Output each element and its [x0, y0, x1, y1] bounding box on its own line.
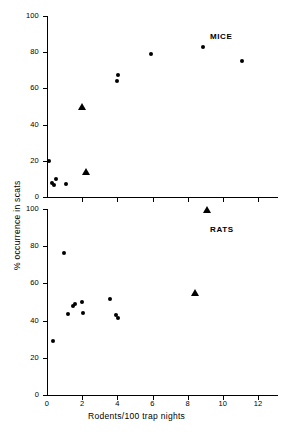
data-point-circle [64, 182, 68, 186]
data-point-triangle [82, 168, 90, 175]
y-axis-tick-label: 60 [17, 84, 39, 92]
x-axis-tick-label: 12 [250, 400, 266, 408]
data-point-circle [115, 79, 119, 83]
y-axis-tick [43, 246, 47, 247]
y-axis-line [47, 209, 48, 395]
data-point-circle [116, 316, 120, 320]
y-axis-tick-label: 80 [17, 48, 39, 56]
panel-title-rats: RATS [210, 225, 234, 234]
y-axis-tick-label: 60 [17, 279, 39, 287]
data-point-triangle [78, 103, 86, 110]
data-point-circle [73, 302, 77, 306]
y-axis-tick [43, 358, 47, 359]
data-point-circle [240, 59, 244, 63]
data-point-circle [51, 339, 55, 343]
x-axis-tick-label: 4 [109, 400, 125, 408]
data-point-circle [54, 177, 58, 181]
y-axis-tick [43, 88, 47, 89]
data-point-circle [149, 52, 153, 56]
data-point-circle [108, 297, 112, 301]
y-axis-tick [43, 209, 47, 210]
x-axis-tick [153, 198, 154, 202]
y-axis-tick-label: 40 [17, 121, 39, 129]
data-point-circle [81, 311, 85, 315]
y-axis-tick-label: 20 [17, 354, 39, 362]
x-axis-tick-label: 0 [39, 400, 55, 408]
x-axis-tick-label: 6 [145, 400, 161, 408]
y-axis-tick-label: 0 [17, 391, 39, 399]
panel-title-mice: MICE [210, 32, 232, 41]
y-axis-tick-label: 100 [17, 12, 39, 20]
x-axis-tick [223, 198, 224, 202]
x-axis-tick-label: 10 [215, 400, 231, 408]
data-point-circle [201, 45, 205, 49]
y-axis-tick [43, 125, 47, 126]
y-axis-tick [43, 283, 47, 284]
data-point-circle [80, 300, 84, 304]
data-point-circle [66, 312, 70, 316]
y-axis-tick-label: 20 [17, 157, 39, 165]
data-point-circle [62, 251, 66, 255]
x-axis-tick [82, 198, 83, 202]
x-axis-tick [188, 198, 189, 202]
x-axis-tick [258, 198, 259, 202]
data-point-circle [52, 183, 56, 187]
x-axis-tick-label: 8 [180, 400, 196, 408]
x-axis-title: Rodents/100 trap nights [88, 411, 185, 421]
y-axis-title: % occurrence in scats [12, 181, 22, 270]
y-axis-tick [43, 16, 47, 17]
y-axis-tick [43, 197, 47, 198]
x-axis-tick [117, 198, 118, 202]
y-axis-line [47, 16, 48, 197]
y-axis-tick [43, 321, 47, 322]
y-axis-tick [43, 52, 47, 53]
data-point-triangle [191, 289, 199, 296]
y-axis-tick-label: 40 [17, 317, 39, 325]
data-point-triangle [203, 206, 211, 213]
y-axis-tick [43, 395, 47, 396]
data-point-circle [116, 73, 120, 77]
figure-root: 020406080100MICE 020406080100024681012RA… [0, 0, 281, 435]
data-point-circle [47, 159, 51, 163]
x-axis-tick-label: 2 [74, 400, 90, 408]
